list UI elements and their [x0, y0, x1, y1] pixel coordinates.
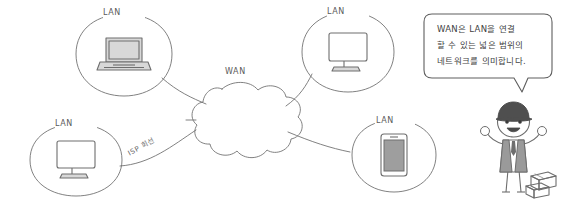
lan-label-laptop: LAN — [103, 8, 121, 17]
speech-bubble-line-2: 할 수 있는 넓은 범위의 — [437, 38, 524, 52]
lan-label-monitor-left: LAN — [55, 119, 73, 128]
isp-line-label: ISP 회선 — [126, 135, 156, 157]
speech-bubble-line-3: 네트워크를 의미합니다. — [437, 54, 526, 68]
lan-label-phone: LAN — [376, 116, 394, 125]
lan-label-monitor-top: LAN — [327, 7, 345, 16]
wan-label: WAN — [225, 67, 246, 76]
diagram-text-layer: LAN LAN LAN LAN WAN ISP 회선 WAN은 LAN을 연결 … — [0, 0, 576, 211]
speech-bubble-line-1: WAN은 LAN을 연결 — [437, 22, 515, 36]
network-diagram-canvas: .ln { fill:none; stroke:#737373; stroke-… — [0, 0, 576, 211]
